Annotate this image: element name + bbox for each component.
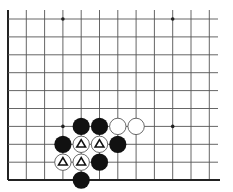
star-point xyxy=(61,17,65,21)
black-stone xyxy=(73,118,90,135)
star-point xyxy=(171,17,175,21)
star-point xyxy=(61,125,65,129)
black-stone-icon xyxy=(54,136,71,153)
black-stone-icon xyxy=(91,154,108,171)
white-stone-icon xyxy=(110,118,126,134)
white-stone-icon xyxy=(128,118,144,134)
white-stone xyxy=(91,136,107,152)
black-stone xyxy=(73,172,90,189)
board-grid xyxy=(8,10,220,180)
black-stone xyxy=(91,118,108,135)
black-stone-icon xyxy=(73,172,90,189)
go-board xyxy=(0,0,233,192)
white-stone xyxy=(73,154,89,170)
black-stone xyxy=(54,136,71,153)
black-stone-icon xyxy=(91,118,108,135)
white-stone xyxy=(128,118,144,134)
black-stone-icon xyxy=(109,136,126,153)
white-stone xyxy=(110,118,126,134)
white-stone xyxy=(55,154,71,170)
star-point xyxy=(171,125,175,129)
white-stone xyxy=(73,136,89,152)
black-stone xyxy=(91,154,108,171)
black-stone-icon xyxy=(73,118,90,135)
black-stone xyxy=(109,136,126,153)
